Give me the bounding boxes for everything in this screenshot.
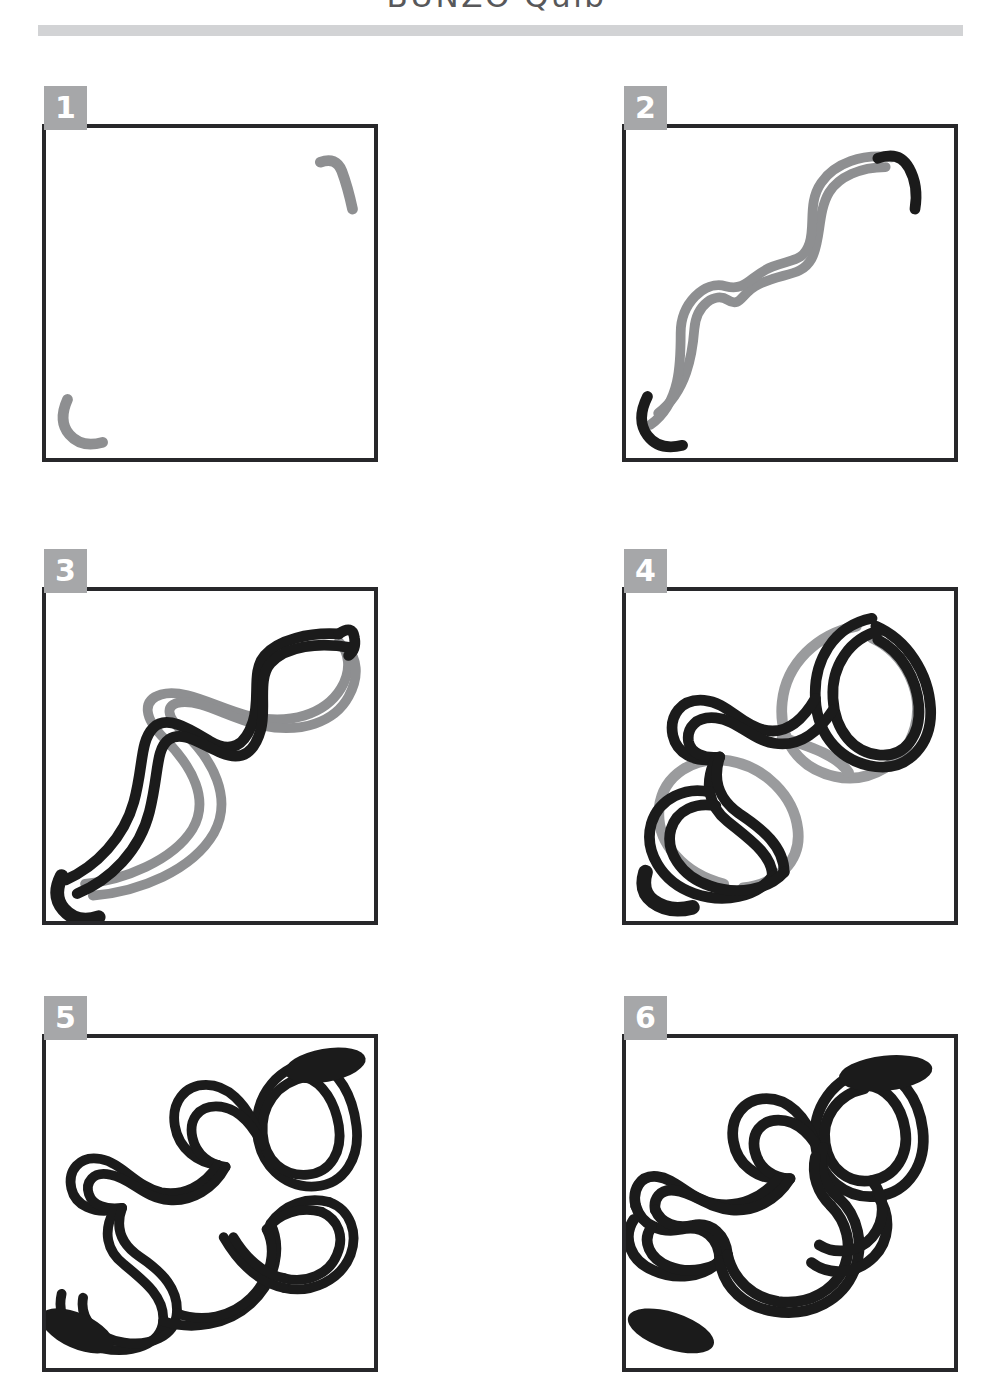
step-frame-3 [42, 587, 378, 925]
step-panel-3: 3 [42, 549, 378, 887]
step-frame-4 [622, 587, 958, 925]
step-frame-6 [622, 1034, 958, 1372]
step-artwork-5 [46, 1038, 374, 1368]
step-panel-6: 6 [622, 996, 958, 1334]
step-artwork-4 [626, 591, 954, 921]
step-badge-2: 2 [624, 86, 667, 130]
step-badge-6: 6 [624, 996, 667, 1040]
page-header: BUNZO Quib [0, 0, 993, 46]
page-title: BUNZO Quib [0, 0, 993, 14]
step-artwork-3 [46, 591, 374, 921]
step-artwork-2 [626, 128, 954, 458]
step-artwork-1 [46, 128, 374, 458]
step-panel-1: 1 [42, 86, 378, 424]
step-frame-5 [42, 1034, 378, 1372]
step-artwork-6 [626, 1038, 954, 1368]
step-frame-2 [622, 124, 958, 462]
step-panel-5: 5 [42, 996, 378, 1334]
step-frame-1 [42, 124, 378, 462]
step-badge-3: 3 [44, 549, 87, 593]
header-divider [38, 25, 963, 36]
step-badge-4: 4 [624, 549, 667, 593]
steps-grid: 1 2 [0, 46, 993, 1397]
step-panel-2: 2 [622, 86, 958, 424]
step-badge-5: 5 [44, 996, 87, 1040]
step-panel-4: 4 [622, 549, 958, 887]
step-badge-1: 1 [44, 86, 87, 130]
